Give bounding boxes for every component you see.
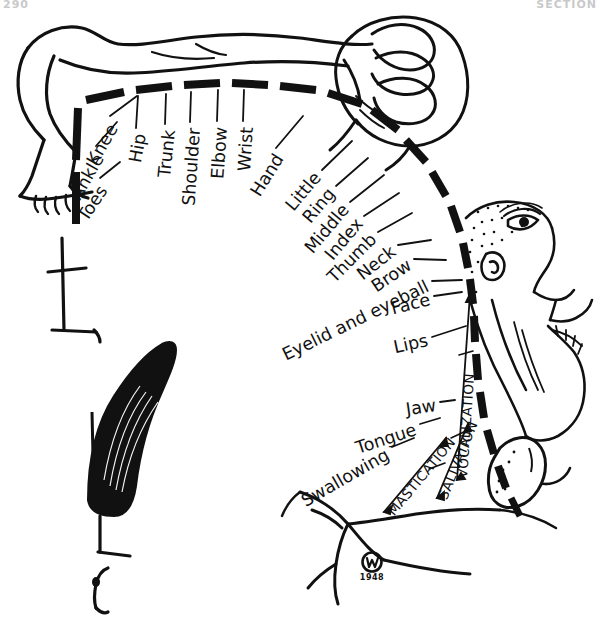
label-group-body: Toes Ankle Knee Hip Trunk Shoulder Elbow… — [66, 121, 288, 226]
cortex-sketch-upper — [48, 238, 100, 342]
label-lips: Lips — [392, 330, 430, 357]
label-jaw: Jaw — [404, 395, 438, 419]
label-shoulder: Shoulder — [179, 126, 204, 206]
figure-page: 290 SECTION — [0, 0, 603, 628]
label-wrist: Wrist — [234, 126, 257, 172]
homunculus-illustration: 1948 — [0, 0, 603, 628]
signature-year: 1948 — [360, 573, 384, 582]
artist-signature: 1948 — [360, 553, 384, 582]
label-knee: Knee — [82, 121, 121, 169]
label-hip: Hip — [125, 132, 150, 164]
label-elbow: Elbow — [207, 126, 231, 179]
cortex-sketch-lower — [92, 516, 130, 613]
label-trunk: Trunk — [154, 128, 179, 179]
hand-illustration — [330, 17, 468, 170]
label-swallowing: Swallowing — [298, 444, 393, 510]
cortex-sketch-lobe — [88, 342, 176, 516]
